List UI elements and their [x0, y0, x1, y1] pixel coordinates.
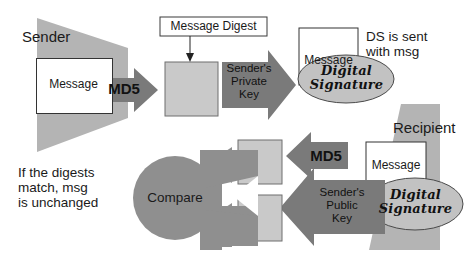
message-box-recipient-label: Message [366, 159, 426, 172]
ds-sent-note: DS is sentwith msg [366, 29, 428, 59]
md5-arrow-sender-label: MD5 [104, 81, 144, 98]
message-digest-callout-label: Message Digest [160, 20, 267, 33]
message-digest-arrowhead [186, 53, 194, 62]
signature-ellipse-recipient-label: DigitalSignature [371, 188, 460, 215]
digest-match-note: If the digestsmatch, msgis unchanged [18, 165, 98, 210]
digest-box-sender-shape [165, 62, 218, 116]
private-key-arrow-label: Sender'sPrivateKey [223, 62, 275, 101]
sender-label: Sender [22, 29, 70, 46]
compare-label: Compare [139, 190, 211, 205]
signature-ellipse-transit-label: DigitalSignature [302, 64, 391, 91]
recipient-label: Recipient [393, 120, 456, 137]
md5-arrow-recipient-label: MD5 [305, 148, 347, 165]
diagram-canvas: Sender Message MD5 Message Digest Sender… [0, 0, 476, 266]
public-key-arrow-label: Sender'sPublicKey [314, 186, 370, 225]
message-box-sender-label: Message [40, 78, 107, 91]
